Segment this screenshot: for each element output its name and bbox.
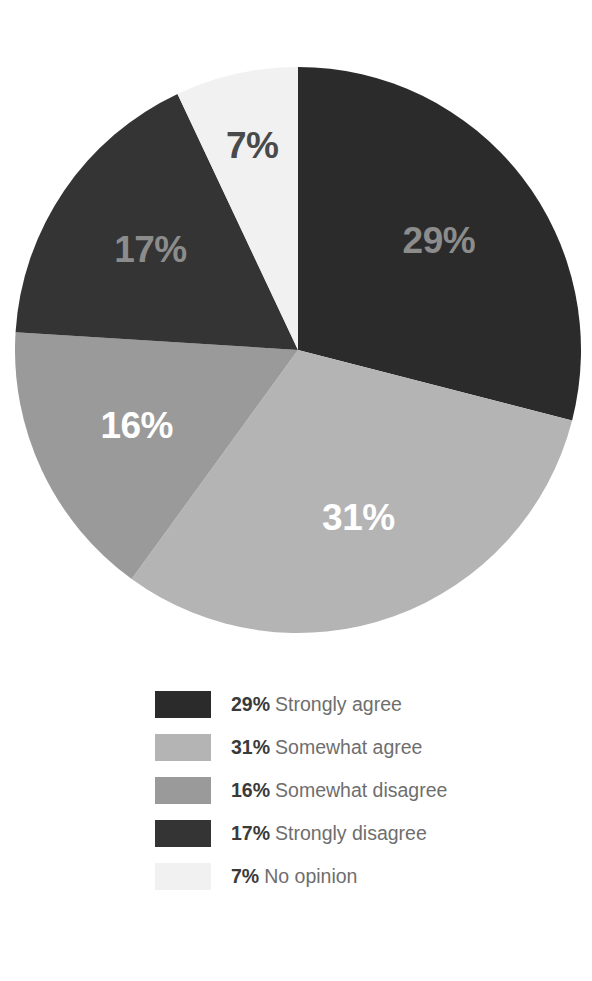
pie-chart-figure: 29%31%16%17%7% 29%Strongly agree31%Somew… — [0, 0, 592, 981]
legend-color-swatch — [155, 820, 211, 847]
legend-label: 29%Strongly agree — [231, 695, 402, 715]
legend-color-swatch — [155, 863, 211, 890]
pie-slice-label: 29% — [403, 220, 476, 261]
legend-category-name: Strongly agree — [275, 693, 402, 715]
legend-percent: 7% — [231, 865, 259, 887]
legend-label: 17%Strongly disagree — [231, 824, 427, 844]
legend-label: 16%Somewhat disagree — [231, 781, 447, 801]
pie-slice-label: 17% — [114, 229, 187, 270]
legend-label: 31%Somewhat agree — [231, 738, 422, 758]
pie-slice-label: 31% — [322, 497, 395, 538]
legend-category-name: Strongly disagree — [275, 822, 427, 844]
legend-color-swatch — [155, 777, 211, 804]
legend-color-swatch — [155, 691, 211, 718]
pie-slice-label: 16% — [100, 405, 173, 446]
legend: 29%Strongly agree31%Somewhat agree16%Som… — [155, 683, 575, 898]
pie-slice-label: 7% — [226, 125, 278, 166]
legend-label: 7%No opinion — [231, 867, 357, 887]
legend-item[interactable]: 7%No opinion — [155, 855, 575, 898]
pie-chart-svg: 29%31%16%17%7% — [15, 67, 581, 633]
legend-item[interactable]: 17%Strongly disagree — [155, 812, 575, 855]
pie-slice-group — [15, 67, 581, 633]
legend-item[interactable]: 29%Strongly agree — [155, 683, 575, 726]
legend-item[interactable]: 31%Somewhat agree — [155, 726, 575, 769]
legend-percent: 31% — [231, 736, 270, 758]
legend-color-swatch — [155, 734, 211, 761]
pie-chart: 29%31%16%17%7% — [15, 67, 581, 633]
legend-item[interactable]: 16%Somewhat disagree — [155, 769, 575, 812]
legend-percent: 16% — [231, 779, 270, 801]
legend-percent: 17% — [231, 822, 270, 844]
legend-category-name: No opinion — [264, 865, 357, 887]
legend-percent: 29% — [231, 693, 270, 715]
legend-category-name: Somewhat agree — [275, 736, 422, 758]
legend-category-name: Somewhat disagree — [275, 779, 447, 801]
